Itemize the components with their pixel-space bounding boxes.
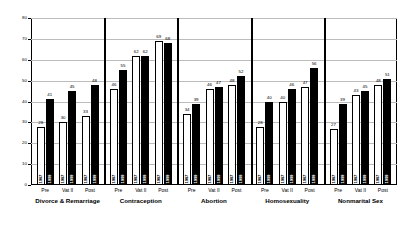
cohort-axis-label: Vat II xyxy=(349,186,371,195)
cohort-group: 401987461999 xyxy=(276,18,298,185)
bar-value-label: 51 xyxy=(385,73,390,77)
bar[interactable]: 561999 xyxy=(310,68,318,185)
bar-value-label: 33 xyxy=(83,110,88,114)
bar-series-label: 1987 xyxy=(331,174,335,183)
plot-area: 01020304050607080 2819874119993019874519… xyxy=(31,18,397,185)
bar[interactable]: 341987 xyxy=(183,114,191,185)
bar[interactable]: 551999 xyxy=(119,70,127,185)
bar[interactable]: 451999 xyxy=(68,91,76,185)
bar-series-label: 1999 xyxy=(312,174,316,183)
cohort-axis-label: Vat II xyxy=(203,186,225,195)
cohort-axis-label: Pre xyxy=(254,186,276,195)
cohort-label-slot: PreVat IIPost xyxy=(177,186,250,195)
category-axis-label: Divorce & Remarriage xyxy=(31,195,104,207)
bar-value-label: 47 xyxy=(216,81,221,85)
bar-value-label: 45 xyxy=(70,85,75,89)
cohort-axis-label: Vat II xyxy=(276,186,298,195)
bar-series-label: 1999 xyxy=(121,174,125,183)
bar-series-label: 1999 xyxy=(92,174,96,183)
category-axis-labels: Divorce & RemarriageContraceptionAbortio… xyxy=(31,195,397,207)
cohort-axis-labels: PreVat IIPostPreVat IIPostPreVat IIPostP… xyxy=(31,186,397,195)
bar-value-label: 69 xyxy=(156,35,161,39)
bar[interactable]: 391999 xyxy=(192,104,200,185)
bar[interactable]: 461987 xyxy=(206,89,214,185)
cohort-group: 471987561999 xyxy=(298,18,320,185)
bar[interactable]: 271987 xyxy=(330,129,338,185)
bar[interactable]: 481987 xyxy=(374,85,382,185)
topic-group: 341987391999461987471999481987521999 xyxy=(177,18,250,185)
bar[interactable]: 281987 xyxy=(256,127,264,185)
bar[interactable]: 511999 xyxy=(383,79,391,185)
cohort-group: 301987451999 xyxy=(56,18,78,185)
bar-value-label: 34 xyxy=(185,108,190,112)
y-axis-tick-label: 70 xyxy=(9,37,27,41)
bar[interactable]: 451999 xyxy=(361,91,369,185)
bar-series-label: 1987 xyxy=(354,174,358,183)
bar[interactable]: 461987 xyxy=(110,89,118,185)
cohort-axis-label: Post xyxy=(225,186,247,195)
bar[interactable]: 621999 xyxy=(141,56,149,185)
y-axis-tick-label: 0 xyxy=(9,183,27,187)
bar-value-label: 41 xyxy=(47,93,52,97)
bar[interactable]: 301987 xyxy=(59,122,67,185)
bar[interactable]: 401987 xyxy=(279,102,287,186)
bar-series-label: 1999 xyxy=(385,174,389,183)
category-axis-label: Abortion xyxy=(177,195,250,207)
bar-value-label: 28 xyxy=(38,121,43,125)
bar[interactable]: 691987 xyxy=(155,41,163,185)
bar[interactable]: 391999 xyxy=(339,104,347,185)
bar-series-label: 1999 xyxy=(70,174,74,183)
bar-series-label: 1987 xyxy=(157,174,161,183)
bar[interactable]: 481987 xyxy=(228,85,236,185)
bar[interactable]: 681999 xyxy=(164,43,172,185)
bar-series-label: 1987 xyxy=(207,174,211,183)
bar[interactable]: 471999 xyxy=(215,87,223,185)
cohort-group: 271987391999 xyxy=(327,18,349,185)
cohort-group: 691987681999 xyxy=(152,18,174,185)
bar-series-label: 1999 xyxy=(267,174,271,183)
bar[interactable]: 411999 xyxy=(46,99,54,185)
bar-value-label: 62 xyxy=(143,50,148,54)
bar-value-label: 27 xyxy=(331,123,336,127)
bar-series-label: 1987 xyxy=(185,174,189,183)
cohort-label-slot: PreVat IIPost xyxy=(251,186,324,195)
topic-group: 281987401999401987461999471987561999 xyxy=(251,18,324,185)
bar[interactable]: 281987 xyxy=(37,127,45,185)
bar-series-label: 1987 xyxy=(61,174,65,183)
bar[interactable]: 401999 xyxy=(265,102,273,186)
bar-series-label: 1987 xyxy=(303,174,307,183)
topic-group: 281987411999301987451999331987481999 xyxy=(31,18,104,185)
cohort-axis-label: Pre xyxy=(327,186,349,195)
category-axis-label: Nonmarital Sex xyxy=(324,195,397,207)
bar-series-label: 1999 xyxy=(143,174,147,183)
bar[interactable]: 431987 xyxy=(352,95,360,185)
bar-series-label: 1987 xyxy=(258,174,262,183)
bar[interactable]: 331987 xyxy=(82,116,90,185)
bar-value-label: 40 xyxy=(267,96,272,100)
bar-value-label: 46 xyxy=(207,83,212,87)
bar-series-label: 1987 xyxy=(83,174,87,183)
bar[interactable]: 461999 xyxy=(288,89,296,185)
bar-series-label: 1999 xyxy=(239,174,243,183)
cohort-label-slot: PreVat IIPost xyxy=(31,186,104,195)
bar[interactable]: 481999 xyxy=(91,85,99,185)
bar-value-label: 62 xyxy=(134,50,139,54)
bar[interactable]: 621987 xyxy=(132,56,140,185)
bar-series-label: 1987 xyxy=(134,174,138,183)
bar-series-label: 1987 xyxy=(230,174,234,183)
bar[interactable]: 471987 xyxy=(301,87,309,185)
bar-value-label: 46 xyxy=(289,83,294,87)
bar-series-label: 1999 xyxy=(166,174,170,183)
cohort-group: 461987551999 xyxy=(107,18,129,185)
y-axis-tick-label: 20 xyxy=(9,141,27,145)
category-axis-label: Homosexuality xyxy=(251,195,324,207)
bar-value-label: 52 xyxy=(238,70,243,74)
category-axis-label: Contraception xyxy=(104,195,177,207)
y-axis-tick-label: 40 xyxy=(9,100,27,104)
bar-series-label: 1987 xyxy=(376,174,380,183)
bar-series-label: 1987 xyxy=(112,174,116,183)
bar-series-label: 1999 xyxy=(194,174,198,183)
bar[interactable]: 521999 xyxy=(237,76,245,185)
cohort-group: 281987401999 xyxy=(254,18,276,185)
cohort-axis-label: Pre xyxy=(34,186,56,195)
